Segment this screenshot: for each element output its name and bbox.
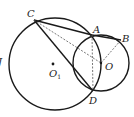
segment-co-dashed — [34, 20, 101, 63]
circle-o1 — [9, 18, 101, 110]
segment-ad-dashed — [92, 35, 93, 91]
point-o-dot — [100, 62, 102, 64]
edge-glyph: J — [0, 56, 3, 67]
geometry-diagram: C A B O D O1 J — [0, 0, 134, 117]
segment-cd — [34, 20, 93, 91]
label-o: O — [105, 61, 113, 72]
label-b: B — [121, 33, 129, 44]
segment-ob-dashed — [101, 40, 121, 63]
label-d: D — [88, 95, 97, 106]
label-a: A — [92, 24, 100, 35]
label-c: C — [27, 8, 35, 19]
point-o1-dot — [52, 63, 55, 66]
label-o1: O1 — [49, 68, 61, 80]
